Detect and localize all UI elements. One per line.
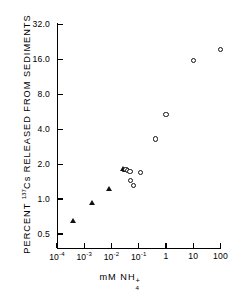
x-tick-5 [193,243,194,248]
data-point-open-circles-4 [131,183,136,188]
x-tick-label-6: 100 [201,251,236,261]
data-point-open-circles-2 [127,169,132,174]
data-point-open-circles-8 [191,58,196,63]
chart-figure: PERCENT 137Cs RELEASED FROM SEDIMENTS 32… [0,0,235,295]
x-axis-spine [57,248,221,249]
x-axis-title: mM NH4+ [0,272,235,282]
y-tick-label-0: 32.0 [16,19,50,29]
data-point-open-circles-5 [138,170,143,175]
x-tick-0 [56,243,57,248]
x-axis-title-pre: mM NH [99,272,135,282]
x-tick-3 [138,243,139,248]
y-tick-label-2: 8.0 [16,89,50,99]
y-tick-label-4: 2.0 [16,159,50,169]
data-point-open-circles-7 [163,112,168,117]
x-axis-title-superscript: + [136,276,141,285]
y-tick-label-5: 1.0 [16,194,50,204]
x-axis-title-subscript: 4 [136,284,140,291]
y-tick-2 [58,94,63,95]
y-tick-label-3: 4.0 [16,124,50,134]
data-point-filled-triangles-1 [89,200,95,205]
y-tick-4 [58,164,63,165]
y-tick-5 [58,198,63,199]
y-tick-label-1: 16.0 [16,54,50,64]
x-tick-1 [84,243,85,248]
y-axis-title: PERCENT 137Cs RELEASED FROM SEDIMENTS [20,12,32,256]
y-tick-1 [58,59,63,60]
x-tick-4 [165,243,166,248]
data-point-open-circles-9 [218,47,223,52]
y-tick-6 [58,233,63,234]
x-tick-6 [220,243,221,248]
data-point-filled-triangles-2 [106,186,112,191]
y-tick-label-6: 0.5 [16,229,50,239]
data-point-open-circles-6 [153,136,158,141]
y-axis-title-pre: PERCENT [22,199,32,253]
y-tick-3 [58,129,63,130]
y-tick-0 [58,24,63,25]
y-axis-spine [57,23,58,249]
data-point-filled-triangles-0 [70,218,76,223]
x-tick-2 [111,243,112,248]
